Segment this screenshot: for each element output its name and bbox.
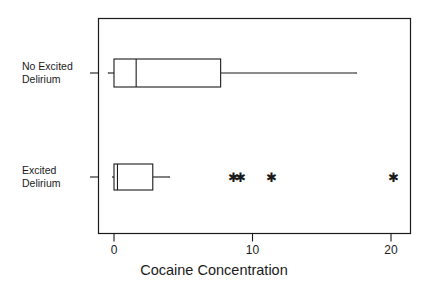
outlier-marker-1-2: ✱ xyxy=(266,170,277,185)
category-label-no-excited-delirium: No Excited Delirium xyxy=(22,60,94,86)
x-tick-label-10: 10 xyxy=(233,243,273,257)
box-1 xyxy=(114,164,153,190)
axis-ticks-layer xyxy=(114,234,391,242)
x-tick-label-20: 20 xyxy=(371,243,411,257)
plot-frame xyxy=(99,19,411,234)
category-label-excited-delirium: Excited Delirium xyxy=(22,164,94,190)
box-0 xyxy=(114,59,221,87)
x-axis-title: Cocaine Concentration xyxy=(0,262,428,278)
outlier-marker-1-3: ✱ xyxy=(388,170,399,185)
plot-canvas: ✱✱✱✱ xyxy=(0,0,428,292)
outlier-marker-1-1: ✱ xyxy=(235,170,246,185)
box-plot-figure: ✱✱✱✱ No Excited Delirium Excited Deliriu… xyxy=(0,0,428,292)
category-ticks-layer xyxy=(90,73,99,177)
x-tick-label-0: 0 xyxy=(94,243,134,257)
